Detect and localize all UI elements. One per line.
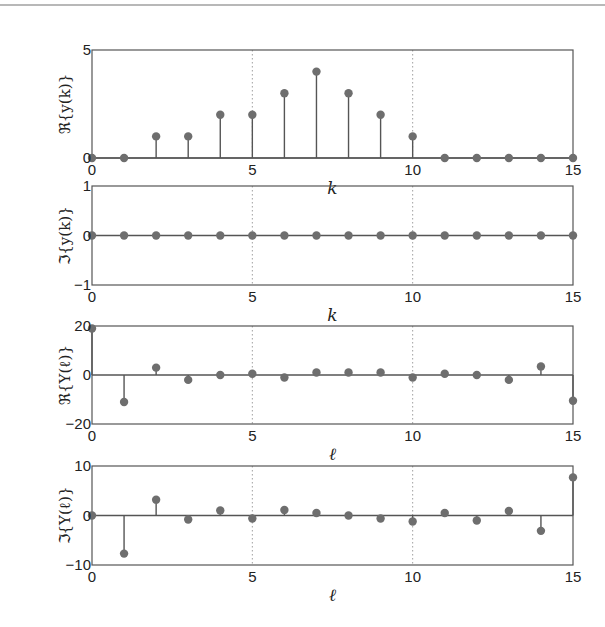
- y-tick-label: 0: [83, 227, 91, 244]
- x-tick-label: 10: [404, 161, 421, 178]
- stem-marker: [184, 515, 192, 523]
- subplot-4: 051015−10010ℓℑ{Y(ℓ)}: [56, 457, 581, 605]
- stem-marker: [312, 231, 320, 239]
- stem-marker: [152, 363, 160, 371]
- stem-marker: [376, 368, 384, 376]
- x-tick-label: 10: [404, 288, 421, 305]
- subplot-2: 051015−101kℑ{y(k)}: [56, 177, 581, 325]
- stem-marker: [569, 473, 577, 481]
- stem-marker: [120, 154, 128, 162]
- stem-marker: [473, 516, 481, 524]
- stem-marker: [473, 371, 481, 379]
- y-axis-label: ℜ{y(k)}: [56, 74, 74, 134]
- stem-marker: [441, 154, 449, 162]
- stem-marker: [505, 154, 513, 162]
- stem-marker: [344, 89, 352, 97]
- subplot-3: 051015−20020ℓℜ{Y(ℓ)}: [56, 317, 581, 464]
- stem-marker: [408, 373, 416, 381]
- y-tick-label: −1: [74, 276, 91, 293]
- stem-marker: [537, 527, 545, 535]
- stem-marker: [376, 231, 384, 239]
- axes-box: [92, 50, 573, 158]
- stem-marker: [537, 231, 545, 239]
- stem-marker: [120, 549, 128, 557]
- y-tick-label: 10: [74, 457, 91, 474]
- y-tick-label: −10: [66, 556, 91, 573]
- x-axis-label: ℓ: [329, 444, 336, 464]
- stem-marker: [152, 495, 160, 503]
- stem-marker: [216, 111, 224, 119]
- y-axis-label: ℜ{Y(ℓ)}: [56, 345, 74, 405]
- stem-marker: [280, 89, 288, 97]
- stem-marker: [537, 154, 545, 162]
- x-tick-label: 15: [565, 568, 582, 585]
- stem-marker: [537, 362, 545, 370]
- stem-marker: [505, 231, 513, 239]
- stem-marker: [280, 231, 288, 239]
- stem-marker: [312, 67, 320, 75]
- stem-marker: [248, 111, 256, 119]
- stem-marker: [408, 231, 416, 239]
- y-tick-label: 0: [83, 507, 91, 524]
- stem-marker: [248, 231, 256, 239]
- stem-marker: [344, 511, 352, 519]
- x-tick-label: 5: [248, 427, 256, 444]
- x-tick-label: 10: [404, 427, 421, 444]
- x-tick-label: 5: [248, 161, 256, 178]
- stem-marker: [473, 154, 481, 162]
- stem-marker: [344, 368, 352, 376]
- stem-marker: [280, 506, 288, 514]
- stem-marker: [120, 231, 128, 239]
- stem-marker: [441, 231, 449, 239]
- x-tick-label: 5: [248, 568, 256, 585]
- stem-marker: [248, 514, 256, 522]
- stem-marker: [120, 398, 128, 406]
- stem-marker: [376, 111, 384, 119]
- stem-marker: [216, 371, 224, 379]
- y-axis-label: ℑ{Y(ℓ)}: [56, 487, 74, 545]
- stem-marker: [569, 397, 577, 405]
- stem-marker: [280, 373, 288, 381]
- x-axis-label: ℓ: [329, 585, 336, 605]
- stem-marker: [312, 368, 320, 376]
- x-axis-label: k: [327, 178, 337, 198]
- stem-marker: [216, 506, 224, 514]
- stem-marker: [312, 509, 320, 517]
- y-axis-label: ℑ{y(k)}: [56, 206, 74, 264]
- y-tick-label: 20: [74, 317, 91, 334]
- y-tick-label: 5: [83, 41, 91, 58]
- stem-marker: [408, 132, 416, 140]
- y-tick-label: 0: [83, 149, 91, 166]
- stem-plots-figure: 05101505kℜ{y(k)}051015−101kℑ{y(k)}051015…: [0, 0, 605, 627]
- stem-marker: [376, 514, 384, 522]
- stem-marker: [184, 376, 192, 384]
- y-tick-label: 0: [83, 366, 91, 383]
- stem-marker: [152, 132, 160, 140]
- stem-marker: [152, 231, 160, 239]
- stem-marker: [441, 509, 449, 517]
- x-axis-label: k: [327, 305, 337, 325]
- x-tick-label: 15: [565, 427, 582, 444]
- stem-marker: [441, 370, 449, 378]
- stem-marker: [184, 132, 192, 140]
- stem-marker: [505, 507, 513, 515]
- stem-marker: [216, 231, 224, 239]
- stem-marker: [408, 517, 416, 525]
- x-tick-label: 15: [565, 288, 582, 305]
- stem-marker: [184, 231, 192, 239]
- stem-marker: [344, 231, 352, 239]
- stem-marker: [569, 231, 577, 239]
- subplot-1: 05101505kℜ{y(k)}: [56, 41, 581, 198]
- x-tick-label: 15: [565, 161, 582, 178]
- y-tick-label: −20: [66, 415, 91, 432]
- x-tick-label: 5: [248, 288, 256, 305]
- stem-marker: [248, 370, 256, 378]
- y-tick-label: 1: [83, 177, 91, 194]
- x-tick-label: 10: [404, 568, 421, 585]
- stem-marker: [473, 231, 481, 239]
- stem-marker: [505, 376, 513, 384]
